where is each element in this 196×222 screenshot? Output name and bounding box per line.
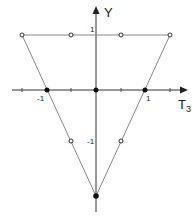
y-axis-label: Y (104, 5, 113, 20)
y-axis (93, 6, 100, 212)
x-axis-label-subscript: 3 (186, 104, 191, 114)
filled-point (94, 88, 99, 93)
open-point (119, 139, 123, 143)
x-axis (12, 87, 188, 94)
open-point (168, 33, 172, 37)
tick-label-y-pos1: 1 (90, 25, 95, 34)
open-point (119, 33, 123, 37)
x-axis-label: T3 (178, 97, 191, 114)
tick-label-x-neg1: -1 (37, 94, 45, 103)
filled-point (143, 88, 148, 93)
open-point (69, 33, 73, 37)
filled-point (93, 193, 99, 199)
tick-label-y-neg1: -1 (87, 137, 95, 146)
tick-label-x-pos1: 1 (146, 94, 151, 103)
x-axis-arrow-icon (180, 87, 188, 94)
open-point (20, 33, 24, 37)
weight-diagram: Y T3 1 -1 -1 1 (0, 0, 196, 222)
y-axis-arrow-icon (93, 6, 100, 14)
filled-point (45, 88, 50, 93)
open-point (69, 139, 73, 143)
